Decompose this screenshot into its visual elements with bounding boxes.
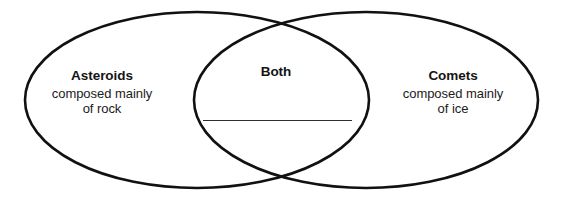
center-set-title: Both [196, 64, 356, 80]
answer-blank-line[interactable] [203, 120, 352, 121]
left-set-label: Asteroids composed mainly of rock [22, 68, 182, 117]
left-set-description-line-2: of rock [22, 101, 182, 116]
right-set-description-line-1: composed mainly [372, 86, 534, 101]
left-set-title: Asteroids [22, 68, 182, 84]
right-set-label: Comets composed mainly of ice [372, 68, 534, 117]
venn-diagram: Asteroids composed mainly of rock Both C… [0, 0, 562, 197]
right-set-title: Comets [372, 68, 534, 84]
right-set-description-line-2: of ice [372, 101, 534, 116]
center-set-label: Both [196, 64, 356, 80]
left-set-description-line-1: composed mainly [22, 86, 182, 101]
